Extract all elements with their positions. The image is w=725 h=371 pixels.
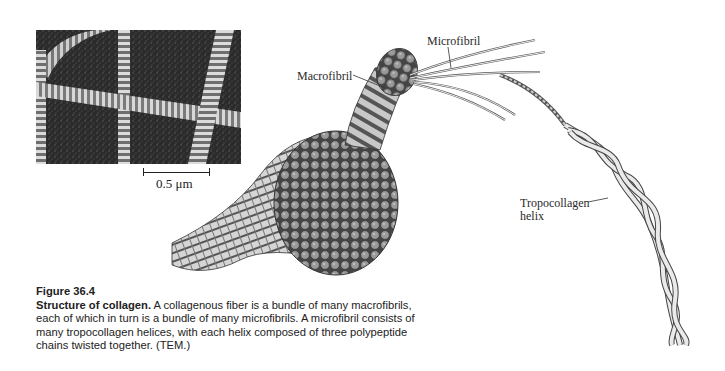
microfibril-label: Microfibril — [427, 35, 480, 48]
microfibril-leader-line — [448, 47, 451, 68]
figure-number: Figure 36.4 — [36, 285, 436, 299]
tropocollagen-label-line1: Tropocollagen — [520, 196, 590, 210]
tropocollagen-label-line2: helix — [520, 209, 544, 223]
caption-title: Structure of collagen. — [36, 299, 151, 311]
microfibrils — [410, 40, 545, 120]
tropocollagen-leader-line — [588, 198, 608, 202]
collagen-fiber — [172, 131, 398, 275]
tropocollagen-label: Tropocollagen helix — [520, 197, 590, 223]
macrofibril — [345, 43, 424, 150]
figure-caption: Figure 36.4 Structure of collagen. A col… — [36, 285, 436, 353]
macrofibril-label: Macrofibril — [297, 70, 352, 83]
